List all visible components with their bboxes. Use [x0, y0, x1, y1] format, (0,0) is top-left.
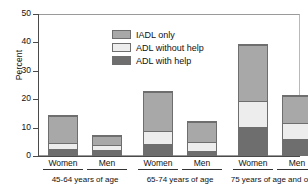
bar-segment-adl-without-help — [144, 131, 172, 144]
chart-figure: Percent 01020304050 IADL onlyADL without… — [0, 0, 308, 191]
bar-segment-adl-with-help — [283, 139, 308, 155]
x-axis-group-labels: 45-64 years of age65-74 years of age75 y… — [39, 175, 300, 189]
x-axis-label-men: Men — [87, 158, 127, 170]
y-axis-tick-label: 20 — [3, 93, 31, 103]
bar-group — [48, 14, 78, 156]
x-axis-label-men: Men — [182, 158, 222, 170]
legend-swatch-icon — [112, 43, 131, 52]
legend-label: IADL only — [136, 30, 175, 40]
y-axis-tick-label: 30 — [3, 65, 31, 75]
bar-segment-iadl-only — [93, 136, 121, 145]
bar-segment-iadl-only — [283, 96, 308, 123]
legend: IADL onlyADL without helpADL with help — [112, 28, 204, 67]
bar-segment-adl-without-help — [188, 142, 216, 151]
y-axis-tick-label: 40 — [3, 36, 31, 46]
x-axis-label-women: Women — [138, 158, 178, 170]
x-axis-line — [38, 156, 300, 157]
bar-segment-adl-with-help — [93, 150, 121, 155]
legend-swatch-icon — [112, 30, 131, 39]
legend-item: ADL with help — [112, 54, 204, 67]
bar-segment-iadl-only — [49, 116, 77, 143]
bar-segment-iadl-only — [239, 45, 267, 101]
bar-segment-iadl-only — [144, 92, 172, 131]
bar-group — [282, 14, 308, 156]
stacked-bar[interactable] — [48, 115, 78, 156]
legend-swatch-icon — [112, 56, 131, 65]
x-axis-label-women: Women — [233, 158, 273, 170]
legend-label: ADL with help — [136, 56, 191, 66]
x-axis-label-women: Women — [43, 158, 83, 170]
legend-label: ADL without help — [136, 43, 204, 53]
bar-segment-adl-without-help — [239, 101, 267, 128]
x-axis-group-label: 45-64 years of age — [30, 175, 140, 184]
stacked-bar[interactable] — [143, 91, 173, 156]
bar-segment-adl-with-help — [49, 149, 77, 155]
x-axis-group-label: 75 years of age and over — [220, 175, 308, 184]
stacked-bar[interactable] — [282, 95, 308, 156]
legend-item: IADL only — [112, 28, 204, 41]
bar-segment-adl-with-help — [144, 144, 172, 155]
stacked-bar[interactable] — [92, 135, 122, 156]
x-axis-sex-labels: WomenMenWomenMenWomenMen — [39, 158, 300, 172]
bar-segment-adl-with-help — [239, 127, 267, 155]
x-axis-group-label: 65-74 years of age — [125, 175, 235, 184]
y-axis-tick-label: 50 — [3, 8, 31, 18]
stacked-bar[interactable] — [238, 44, 268, 156]
y-axis-tick-label: 10 — [3, 122, 31, 132]
legend-item: ADL without help — [112, 41, 204, 54]
bar-segment-iadl-only — [188, 122, 216, 142]
y-axis-tick-label: 0 — [3, 150, 31, 160]
stacked-bar[interactable] — [187, 121, 217, 156]
bar-segment-adl-with-help — [188, 151, 216, 155]
bar-segment-adl-without-help — [283, 123, 308, 139]
bar-group — [238, 14, 268, 156]
x-axis-label-men: Men — [277, 158, 308, 170]
